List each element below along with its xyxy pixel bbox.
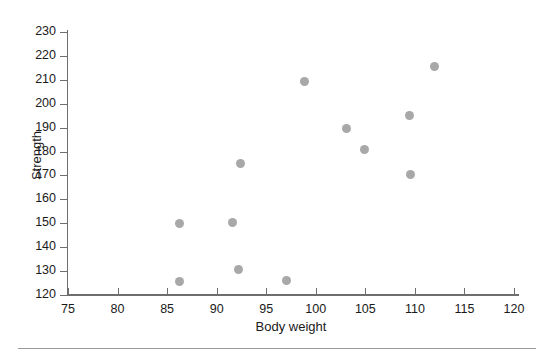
y-tick-mark <box>60 295 67 296</box>
y-tick-mark <box>60 223 67 224</box>
x-tick-label: 75 <box>61 302 75 316</box>
y-tick-label: 140 <box>22 240 56 253</box>
y-tick-mark <box>60 271 67 272</box>
y-tick-label: 220 <box>22 49 56 62</box>
y-tick-mark <box>60 247 67 248</box>
x-tick-mark <box>514 288 515 295</box>
y-tick-mark <box>60 104 67 105</box>
y-tick-label: 130 <box>22 264 56 277</box>
x-tick-label: 115 <box>454 302 474 316</box>
y-tick-label: 210 <box>22 73 56 86</box>
x-tick-label: 90 <box>210 302 224 316</box>
x-tick-label: 80 <box>111 302 125 316</box>
data-point <box>282 276 291 285</box>
y-tick-label: 230 <box>22 25 56 38</box>
y-tick-mark <box>60 199 67 200</box>
data-point <box>300 77 309 86</box>
y-tick-label: 150 <box>22 216 56 229</box>
data-point <box>236 159 245 168</box>
x-tick-label: 105 <box>355 302 376 316</box>
y-axis-title: Strength <box>29 96 44 216</box>
data-point <box>228 218 237 227</box>
x-tick-label: 110 <box>405 302 425 316</box>
x-tick-label: 100 <box>305 302 326 316</box>
scatter-plot-figure: 120130140150160170180190200210220230 758… <box>0 0 554 357</box>
x-tick-label: 85 <box>160 302 174 316</box>
plot-area <box>68 32 514 295</box>
x-axis-title: Body weight <box>68 319 514 334</box>
y-tick-mark <box>60 80 67 81</box>
data-point <box>360 145 369 154</box>
y-tick-mark <box>60 175 67 176</box>
y-tick-mark <box>60 152 67 153</box>
y-tick-mark <box>60 32 67 33</box>
x-tick-label: 120 <box>504 302 525 316</box>
y-tick-mark <box>60 56 67 57</box>
x-tick-label: 95 <box>259 302 273 316</box>
bottom-rule <box>18 348 536 349</box>
y-tick-mark <box>60 128 67 129</box>
